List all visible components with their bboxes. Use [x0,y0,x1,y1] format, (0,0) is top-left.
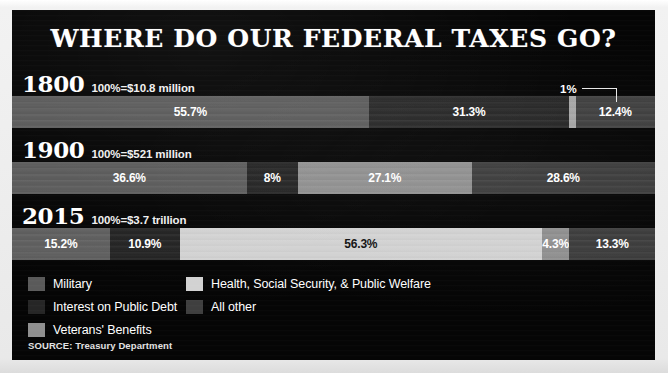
legend-column: Health, Social Security, & Public Welfar… [186,274,431,320]
legend-label: Veterans' Benefits [53,323,152,337]
row-header: 1800100%=$10.8 million [12,72,655,96]
bar-segment-value: 55.7% [174,105,207,119]
bar-segment-value: 31.3% [452,105,485,119]
stacked-bar: 55.7%31.3%12.4% [12,96,655,128]
legend-label: All other [211,300,256,314]
bar-segment-interest: 10.9% [110,228,180,260]
bar-segment-veterans: 27.1% [298,162,472,194]
bar-segment-value: 13.3% [596,237,629,251]
row-header: 1900100%=$521 million [12,138,655,162]
chart-row-1800: 1800100%=$10.8 million55.7%31.3%12.4% [12,72,655,128]
poster-page: WHERE DO OUR FEDERAL TAXES GO? 1800100%=… [0,0,668,373]
row-total-label: 100%=$10.8 million [91,83,194,95]
row-year-label: 1800 [22,72,84,95]
bar-segment-value: 8% [264,171,281,185]
bar-segment-military: 36.6% [12,162,247,194]
callout-leader-line [582,88,617,102]
bar-segment-interest: 8% [247,162,298,194]
bar-segment-value: 4.3% [542,237,569,251]
legend-item-military: Military [28,274,177,294]
bar-segment-health: 56.3% [180,228,542,260]
bar-segment-value: 10.9% [128,237,161,251]
legend-swatch-health [186,277,203,291]
legend-swatch-military [28,277,45,291]
page-title: WHERE DO OUR FEDERAL TAXES GO? [12,24,655,53]
legend-swatch-veterans [28,323,45,337]
legend-label: Health, Social Security, & Public Welfar… [211,277,431,291]
stacked-bar: 15.2%10.9%56.3%4.3%13.3% [12,228,655,260]
bar-segment-military: 15.2% [12,228,110,260]
stacked-bar: 36.6%8%27.1%28.6% [12,162,655,194]
bar-segment-value: 36.6% [113,171,146,185]
row-header: 2015100%=$3.7 trillion [12,204,655,228]
legend-item-other: All other [186,297,431,317]
legend-swatch-interest [28,300,45,314]
bar-segment-veterans: 4.3% [542,228,570,260]
row-year-label: 1900 [22,138,84,161]
bar-segment-military: 55.7% [12,96,369,128]
legend-swatch-other [186,300,203,314]
callout-label: 1% [560,83,577,95]
bar-segment-value: 56.3% [344,237,377,251]
source-note: SOURCE: Treasury Department [28,340,172,351]
bar-segment-other: 28.6% [472,162,655,194]
legend-item-veterans: Veterans' Benefits [28,320,177,340]
chart-row-1900: 1900100%=$521 million36.6%8%27.1%28.6% [12,138,655,194]
legend-label: Military [53,277,92,291]
row-total-label: 100%=$3.7 trillion [91,215,186,227]
row-total-label: 100%=$521 million [91,149,191,161]
bar-segment-value: 28.6% [547,171,580,185]
bar-segment-other: 13.3% [569,228,655,260]
legend-item-interest: Interest on Public Debt [28,297,177,317]
chart-row-2015: 2015100%=$3.7 trillion15.2%10.9%56.3%4.3… [12,204,655,260]
infographic-panel: WHERE DO OUR FEDERAL TAXES GO? 1800100%=… [12,10,655,360]
bar-segment-value: 27.1% [368,171,401,185]
bar-segment-value: 12.4% [599,105,632,119]
legend-label: Interest on Public Debt [53,300,177,314]
bar-segment-value: 15.2% [44,237,77,251]
row-year-label: 2015 [22,204,84,227]
legend-item-health: Health, Social Security, & Public Welfar… [186,274,431,294]
callout-one-percent: 1% [560,84,577,95]
legend-column: MilitaryInterest on Public DebtVeterans'… [28,274,177,343]
bar-segment-interest: 31.3% [369,96,569,128]
